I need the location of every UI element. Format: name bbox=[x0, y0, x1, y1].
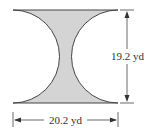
arrowhead-right-icon bbox=[110, 118, 117, 123]
arrowhead-up-icon bbox=[125, 11, 130, 18]
width-label: 20.2 yd bbox=[49, 114, 83, 126]
shaded-region bbox=[13, 10, 118, 103]
height-label: 19.2 yd bbox=[111, 50, 145, 62]
arrowhead-down-icon bbox=[125, 95, 130, 102]
arrowhead-left-icon bbox=[14, 118, 21, 123]
figure-canvas: 19.2 yd 20.2 yd bbox=[0, 0, 146, 133]
